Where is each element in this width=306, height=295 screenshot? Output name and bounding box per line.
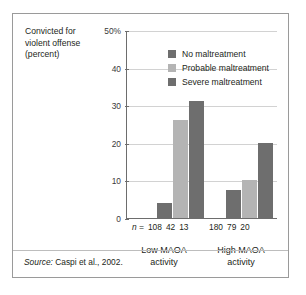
ytick-30 [125,106,129,107]
sample-size-low-2: 42 [166,222,175,232]
legend-swatch-icon-probable-maltreatment [168,64,176,72]
legend-swatch-icon-severe-maltreatment [168,78,176,86]
group-label-low-line-2: activity [126,257,202,269]
legend-item-no-maltreatment: No maltreatment [168,47,269,61]
bar-low-severe-maltreatment [189,101,204,218]
ytick-40 [125,69,129,70]
legend-swatch-icon-no-maltreatment [168,50,176,58]
y-axis-title-line-2: violent offense [25,38,105,50]
ytick-label-10: 10 [112,176,121,186]
sample-size-row-high: 1807920 [209,222,250,232]
sample-size-high-1: 180 [209,222,223,232]
y-axis-line [126,31,127,220]
source-note: Source: Caspi et al., 2002. [24,257,123,267]
ytick-label-0: 0 [116,214,121,224]
ytick-50 [125,31,129,32]
gridline-50 [127,31,277,32]
ytick-label-50: 50% [104,26,121,36]
legend-label-no-maltreatment: No maltreatment [182,49,246,59]
bar-low-probable-maltreatment [173,120,188,218]
ytick-20 [125,144,129,145]
legend-item-severe-maltreatment: Severe maltreatment [168,75,269,89]
sample-size-high-2: 79 [227,222,236,232]
ytick-label-40: 40 [112,64,121,74]
bar-high-probable-maltreatment [242,180,257,218]
bar-low-no-maltreatment [157,203,172,218]
ytick-10 [125,181,129,182]
y-axis-title-line-1: Convicted for [25,26,105,38]
legend-label-probable-maltreatment: Probable maltreatment [182,63,269,73]
bar-high-severe-maltreatment [258,143,273,218]
sample-size-low-1: 108 [148,222,162,232]
legend: No maltreatment Probable maltreatment Se… [168,47,269,89]
legend-label-severe-maltreatment: Severe maltreatment [182,77,262,87]
y-axis-title-line-3: (percent) [25,49,105,61]
source-word: Source: [24,257,53,267]
source-text: Caspi et al., 2002. [55,257,123,267]
footer-divider [13,250,288,251]
legend-item-probable-maltreatment: Probable maltreatment [168,61,269,75]
bar-high-no-maltreatment [226,190,241,218]
ytick-label-30: 30 [112,101,121,111]
ytick-0 [125,219,129,220]
sample-size-prefix: n = [132,222,144,232]
ytick-label-20: 20 [112,139,121,149]
sample-size-high-3: 20 [240,222,249,232]
sample-size-row-low: n =1084213 [132,222,189,232]
y-axis-title: Convicted for violent offense (percent) [25,26,105,61]
sample-size-values-high: 1807920 [209,222,250,232]
group-label-high-line-2: activity [203,257,279,269]
group-label-high-maoa: High MAOA activity [203,245,279,268]
sample-size-low-3: 13 [179,222,188,232]
group-label-low-maoa: Low MAOA activity [126,245,202,268]
x-axis-line [126,218,277,219]
figure-frame: Convicted for violent offense (percent) … [12,13,289,278]
sample-size-values-low: 1084213 [144,222,189,232]
